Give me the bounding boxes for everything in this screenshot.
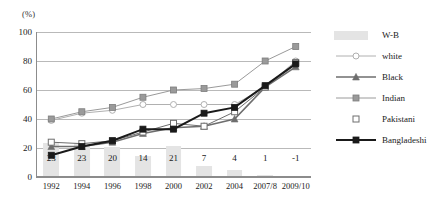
legend-item[interactable]: Black [334,66,428,87]
legend-item[interactable]: Indian [334,87,428,108]
wb-bar-value-label: 20 [108,153,117,163]
legend-item[interactable]: Bangladeshi [334,129,428,150]
x-axis-tick-label: 2009/10 [282,181,310,191]
legend-item-label: W-B [378,30,399,40]
wb-bar-value-label: 23 [47,153,56,163]
y-axis-tick-label: 40 [23,114,32,124]
y-axis-unit-label: (%) [22,9,35,19]
wb-bar-value-label: 4 [232,153,237,163]
gridline [36,177,311,178]
legend-item-label: Pakistani [378,114,415,124]
pakistani-open-square-marker [334,112,378,126]
wb-bar-value-label: 23 [77,153,86,163]
x-axis-tick-label: 2002 [196,181,213,191]
legend: W-BwhiteBlackIndianPakistaniBangladeshi [334,24,428,150]
plot-area: 020406080100 2323201421741-1 19921994199… [36,32,311,177]
legend-item[interactable]: W-B [334,24,428,45]
x-axis-tick-label: 1994 [73,181,90,191]
wb-bar-value-label: 7 [202,153,207,163]
wb-bar-value-label: 21 [169,153,178,163]
y-axis-tick-label: 0 [28,172,33,182]
x-axis-tick-label: 1998 [134,181,151,191]
x-axis-tick-label: 1996 [104,181,121,191]
black-triangle-marker [334,70,378,84]
legend-item-label: white [378,51,402,61]
indian-square-marker [334,91,378,105]
chart-root: (%) 020406080100 2323201421741-1 1992199… [0,0,428,206]
legend-item-label: Bangladeshi [378,135,427,145]
x-axis-tick-label: 2007/8 [253,181,277,191]
wb-swatch [334,31,368,40]
y-axis-tick-label: 80 [23,56,32,66]
wb-bar-swatch [334,28,378,42]
y-axis-tick-label: 20 [23,143,32,153]
legend-item[interactable]: Pakistani [334,108,428,129]
wb-bar-value-label: -1 [292,153,300,163]
white-circle-marker [334,49,378,63]
x-axis-tick-label: 2000 [165,181,182,191]
legend-item-label: Black [378,72,403,82]
y-axis-tick-label: 60 [23,85,32,95]
wb-bar-value-label: 14 [138,153,147,163]
series-indian [48,44,298,123]
legend-item-label: Indian [378,93,405,103]
x-axis-tick-label: 1992 [43,181,60,191]
wb-bar-value-label: 1 [263,153,268,163]
x-axis-tick-label: 2004 [226,181,243,191]
bangladeshi-filled-square-marker [334,133,378,147]
y-axis-tick-label: 100 [19,27,33,37]
legend-item[interactable]: white [334,45,428,66]
